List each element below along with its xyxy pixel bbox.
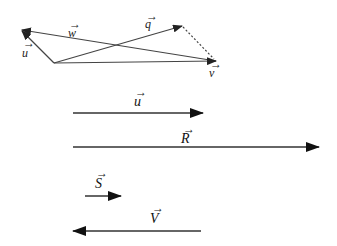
label-R: R → [180,122,195,146]
svg-text:→: → [69,17,81,31]
svg-text:→: → [183,122,195,136]
label-V: V → [150,201,164,226]
vector-diagram: u → w → q → v → u → R → S → [0,0,337,246]
label-S: S → [95,166,108,191]
label-w-top: w → [68,17,81,40]
top-figure: u → w → q → v → [22,9,222,80]
label-q-top: q → [145,9,158,31]
svg-text:→: → [135,85,147,99]
svg-text:→: → [146,9,158,23]
label-v-top: v → [209,57,222,80]
svg-text:→: → [210,57,222,71]
bottom-figure: u → R → S → V → [73,85,319,231]
dotted-q-to-v [183,27,214,59]
label-u-bottom: u → [134,85,147,109]
svg-text:→: → [23,36,35,50]
vector-w-top [22,30,216,61]
svg-text:→: → [152,201,164,215]
svg-text:→: → [96,166,108,180]
vector-v-top [54,61,216,63]
label-u-top: u → [22,36,35,60]
